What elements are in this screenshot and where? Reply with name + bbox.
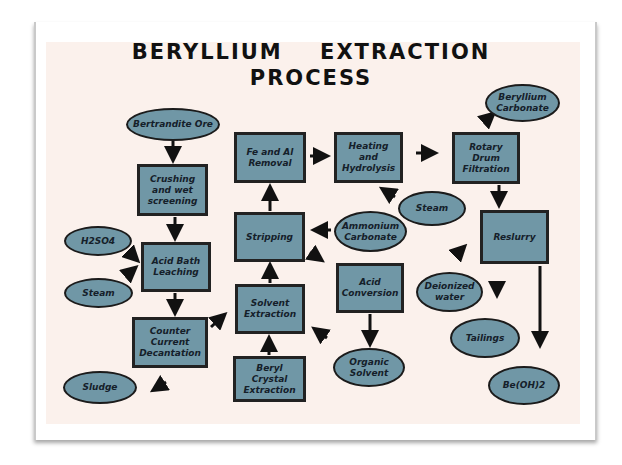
arrow-rotary-to-becarbonate — [484, 115, 492, 122]
node-fe-al-removal: Fe and Al Removal — [234, 132, 306, 183]
node-organic-solvent: Organic Solvent — [333, 348, 405, 387]
node-steam-right: Steam — [398, 191, 466, 226]
node-steam-left: Steam — [64, 278, 133, 308]
node-deionized-water: Deionized water — [416, 272, 483, 312]
node-tailings: Tailings — [450, 318, 520, 358]
node-ammonium-carbonate: Ammonium Carbonate — [334, 211, 407, 252]
arrow-ccd-to-sludge — [155, 382, 166, 389]
arrow-steam-to-heating — [384, 190, 395, 197]
node-acid-bath-leaching: Acid Bath Leaching — [141, 242, 211, 292]
node-acid-conversion: Acid Conversion — [336, 263, 404, 313]
node-crushing: Crushing and wet screening — [137, 164, 208, 216]
node-beryl-crystal-extraction: Beryl Crystal Extraction — [233, 356, 306, 402]
node-rotary-drum-filtration: Rotary Drum Filtration — [452, 132, 520, 184]
node-solvent-extraction: Solvent Extraction — [235, 284, 305, 334]
node-reslurry: Reslurry — [480, 210, 549, 264]
node-heating-hydrolysis: Heating and Hydrolysis — [334, 132, 403, 183]
node-counter-current-decantation: Counter Current Decantation — [132, 317, 208, 368]
arrow-ccd-to-solvent — [211, 316, 223, 327]
arrow-steam-to-acidbath — [127, 269, 134, 275]
node-sludge: Sludge — [63, 371, 137, 404]
arrow-stripping-to-acidconv — [310, 252, 320, 259]
node-bertrandite-ore: Bertrandite Ore — [126, 108, 220, 141]
arrow-h2so4-to-acidbath — [130, 253, 136, 259]
node-h2so4: H2SO4 — [64, 226, 132, 256]
arrow-deionized-to-reslurry — [455, 248, 463, 256]
node-beryllium-carbonate: Beryllium Carbonate — [485, 84, 560, 122]
node-beoh2: Be(OH)2 — [488, 366, 560, 405]
arrow-acidconv-to-solvent — [316, 330, 327, 338]
node-stripping: Stripping — [234, 212, 305, 262]
